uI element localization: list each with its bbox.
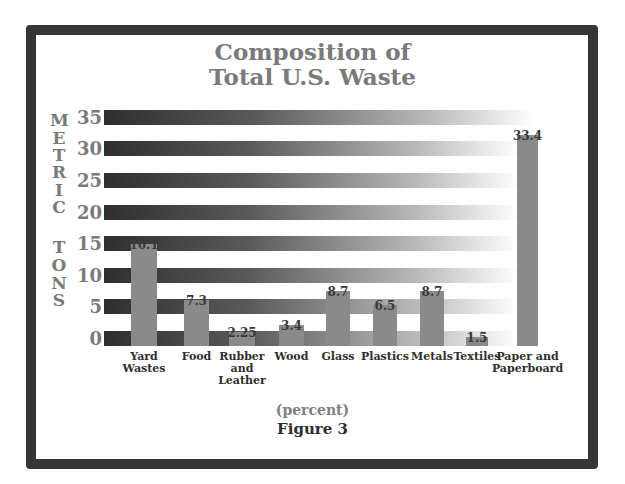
gridline-stripe — [104, 173, 518, 188]
bar-value-label: 2.25 — [217, 327, 267, 339]
y-tick-label: 30 — [70, 141, 104, 156]
y-tick-label: 5 — [70, 299, 104, 314]
bar-value-label: 33.4 — [503, 130, 553, 142]
gridline-stripe — [104, 141, 518, 156]
bar-value-label: 3.4 — [267, 320, 317, 332]
y-tick-label: 0 — [70, 331, 104, 346]
bar — [131, 244, 157, 346]
x-axis-unit-label: (percent) — [0, 402, 625, 418]
bar-value-label: 7.3 — [172, 295, 222, 307]
bar — [326, 291, 350, 346]
x-category-label: Paper andPaperboard — [488, 351, 568, 375]
y-axis-label-letter: T — [50, 239, 68, 256]
bar-value-label: 1.5 — [452, 332, 502, 344]
chart-title-line-2: Total U.S. Waste — [0, 65, 625, 89]
bar-value-label: 16.1 — [119, 239, 169, 251]
y-tick-label: 20 — [70, 205, 104, 220]
chart-title-line-1: Composition of — [0, 40, 625, 64]
bar — [420, 291, 444, 346]
y-axis-label-letter: S — [50, 292, 68, 309]
y-axis-label-letter: C — [50, 199, 68, 216]
gridline-stripe — [104, 110, 534, 125]
y-axis-label-letter: R — [50, 164, 68, 181]
y-tick-label: 35 — [70, 110, 104, 125]
y-tick-label: 25 — [70, 173, 104, 188]
y-tick-label: 10 — [70, 268, 104, 283]
bar-value-label: 8.7 — [407, 286, 457, 298]
y-axis-label-letter: M — [50, 112, 68, 129]
gridline-stripe — [104, 299, 518, 314]
gridline-stripe — [104, 205, 518, 220]
y-axis-label-letter: O — [50, 257, 68, 274]
bar-value-label: 8.7 — [313, 286, 363, 298]
bar-value-label: 6.5 — [360, 300, 410, 312]
y-tick-label: 15 — [70, 236, 104, 251]
gridline-stripe — [104, 268, 518, 283]
figure-caption: Figure 3 — [0, 420, 625, 438]
bar — [517, 135, 538, 346]
